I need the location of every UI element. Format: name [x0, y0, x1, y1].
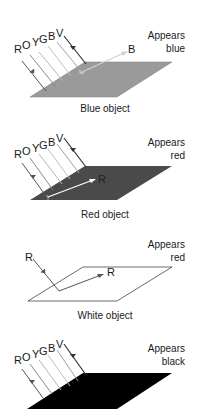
appears-line1: Appears: [140, 30, 185, 42]
label-V: V: [56, 27, 63, 39]
appears-line2: blue: [140, 43, 185, 55]
label-R: R: [14, 354, 22, 366]
white-surface: [28, 267, 172, 301]
reflected-arrow-icon: [121, 51, 128, 56]
reflected-label: R: [98, 173, 106, 185]
label-B: B: [48, 342, 55, 354]
appears-line2: red: [140, 252, 185, 264]
label-G: G: [39, 33, 48, 45]
label-O: O: [22, 145, 31, 157]
label-O: O: [22, 39, 31, 51]
label-V: V: [56, 338, 63, 350]
label-V: V: [56, 132, 63, 144]
black-surface: [27, 373, 172, 409]
label-R: R: [25, 251, 33, 263]
reflected-label: R: [107, 266, 115, 278]
reflected-label: B: [128, 43, 135, 55]
label-G: G: [39, 345, 48, 357]
appears-line2: black: [140, 356, 185, 368]
label-R: R: [14, 148, 22, 160]
label-R: R: [14, 43, 22, 55]
blue-object-diagram: [0, 0, 197, 110]
appears-line1: Appears: [140, 343, 185, 355]
label-G: G: [39, 139, 48, 151]
label-B: B: [48, 30, 55, 42]
label-O: O: [22, 351, 31, 363]
appears-line1: Appears: [140, 137, 185, 149]
appears-line2: red: [140, 150, 185, 162]
label-B: B: [48, 136, 55, 148]
incident-ray: [33, 259, 59, 291]
appears-line1: Appears: [140, 239, 185, 251]
